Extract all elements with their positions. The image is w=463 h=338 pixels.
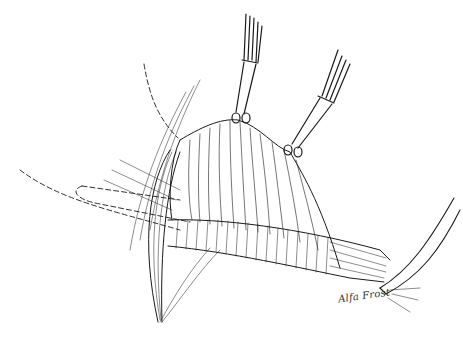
- fibers-lower-right: [388, 288, 420, 312]
- surgical-illustration: Alfa Frost: [0, 0, 463, 338]
- forceps-right: [284, 50, 350, 157]
- membrane-striations: [189, 121, 318, 250]
- forceps-left: [232, 14, 262, 123]
- tube-rings: [176, 220, 328, 274]
- retractor-right: [380, 198, 460, 294]
- dashed-outlines: [20, 64, 190, 230]
- line-drawing: [0, 0, 463, 338]
- tube-fibers: [330, 242, 386, 278]
- fibers-upper-left: [104, 80, 200, 250]
- tubular-structure: [168, 220, 390, 282]
